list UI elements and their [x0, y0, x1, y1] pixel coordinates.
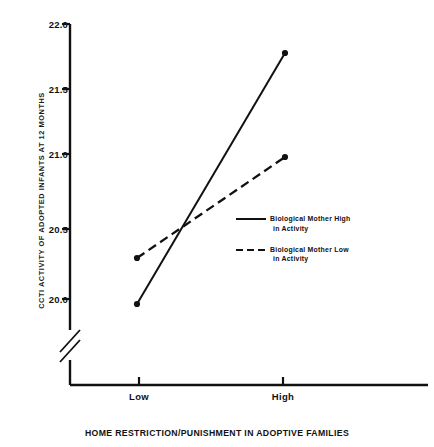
- data-point-low-series-high-x: [282, 154, 288, 160]
- chart-legend: Biological Mother High in Activity Biolo…: [236, 214, 386, 275]
- legend-line-sample-dashed-icon: [236, 249, 266, 252]
- axis-break-slash-lower: [60, 340, 80, 362]
- data-point-high-series-low-x: [134, 301, 140, 307]
- legend-label-line1: Biological Mother Low: [270, 246, 349, 253]
- chart-figure: CCTI ACTIVITY OF ADOPTED INFANTS AT 12 M…: [0, 0, 434, 447]
- legend-entry-biological-mother-high: Biological Mother High in Activity: [236, 214, 386, 234]
- chart-caption: HOME RESTRICTION/PUNISHMENT IN ADOPTIVE …: [0, 428, 434, 438]
- legend-entry-biological-mother-low: Biological Mother Low in Activity: [236, 245, 386, 265]
- legend-label-line2: in Activity: [270, 254, 386, 264]
- axis-break-slash-upper: [60, 330, 80, 352]
- legend-label-biological-mother-low: Biological Mother Low in Activity: [270, 245, 386, 265]
- legend-line-sample-solid-icon: [236, 218, 266, 220]
- legend-label-line1: Biological Mother High: [270, 215, 351, 222]
- legend-label-biological-mother-high: Biological Mother High in Activity: [270, 214, 386, 234]
- legend-label-line2: in Activity: [270, 224, 386, 234]
- data-point-low-series-low-x: [134, 255, 140, 261]
- data-point-high-series-high-x: [282, 50, 288, 56]
